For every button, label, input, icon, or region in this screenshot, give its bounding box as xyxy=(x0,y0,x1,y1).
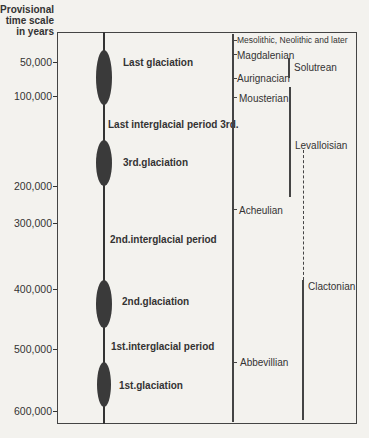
period-3rd-glaciation: 3rd.glaciation xyxy=(123,157,188,168)
tick-label-600000: 600,000 xyxy=(0,405,52,417)
tick-label-50000: 50,000 xyxy=(0,56,52,68)
tick-label-400000: 400,000 xyxy=(0,283,52,295)
culture-abbevillian: Abbevillian xyxy=(240,357,288,368)
bracket-clactonian xyxy=(302,280,304,420)
bracket-solutrean xyxy=(288,58,290,78)
dashed-extension-levalloisian xyxy=(303,150,304,280)
period-1st-glaciation: 1st.glaciation xyxy=(119,380,183,391)
period-last-glaciation: Last glaciation xyxy=(123,57,193,68)
glaciation-blob-3rd xyxy=(96,140,112,186)
bracket-notch xyxy=(233,97,237,98)
period-2nd-interglacial: 2nd.interglacial period xyxy=(110,234,217,245)
period-2nd-glaciation: 2nd.glaciation xyxy=(122,296,189,307)
period-1st-interglacial: 1st.interglacial period xyxy=(111,341,214,352)
culture-clactonian: Clactonian xyxy=(308,281,355,292)
glaciation-blob-1st xyxy=(97,362,111,407)
bracket-notch xyxy=(233,362,237,363)
culture-mesolithic: Mesolithic, Neolithic and later xyxy=(237,35,348,45)
tick-label-500000: 500,000 xyxy=(0,343,52,355)
axis-title-line: Provisional xyxy=(0,4,54,15)
bracket-main xyxy=(232,34,234,422)
culture-mousterian: Mousterian xyxy=(239,93,288,104)
axis-title: Provisional time scale in years xyxy=(0,4,54,37)
culture-magdalenian: Magdalenian xyxy=(237,50,294,61)
tick-label-300000: 300,000 xyxy=(0,217,52,229)
culture-solutrean: Solutrean xyxy=(294,62,337,73)
culture-acheulian: Acheulian xyxy=(239,205,283,216)
bracket-notch xyxy=(233,209,237,210)
tick-label-200000: 200,000 xyxy=(0,180,52,192)
tick-label-100000: 100,000 xyxy=(0,90,52,102)
culture-aurignacian: Aurignacian xyxy=(237,73,290,84)
glaciation-blob-2nd xyxy=(96,280,112,328)
bracket-levalloisian xyxy=(289,87,291,197)
axis-title-line: in years xyxy=(0,26,54,37)
glaciation-blob-last xyxy=(96,50,112,105)
axis-title-line: time scale xyxy=(0,15,54,26)
period-last-interglacial: Last interglacial period 3rd. xyxy=(108,119,239,130)
